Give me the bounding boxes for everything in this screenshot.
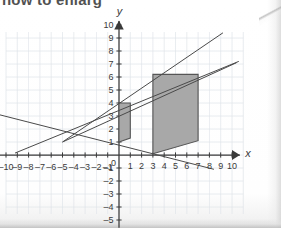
ytick--5: –5	[103, 215, 113, 225]
ytick--4: –4	[103, 202, 113, 212]
xtick-10: 10	[227, 161, 237, 171]
xtick--9: –9	[12, 162, 22, 172]
ytick-5: 5	[108, 85, 113, 95]
ytick--1: –1	[103, 163, 113, 173]
ytick-1: 1	[108, 137, 113, 147]
xtick--3: –3	[80, 162, 90, 172]
xtick--5: –5	[57, 162, 67, 172]
xtick-8: 8	[207, 161, 212, 171]
ytick-8: 8	[108, 46, 113, 56]
scanned-page: how to enlarg –10–9–8–7–6–5–4–3–2–101234…	[0, 0, 281, 228]
xtick-6: 6	[184, 161, 189, 171]
ytick-6: 6	[108, 72, 113, 82]
image-quadrilateral-large	[153, 74, 198, 153]
object-quadrilateral-small	[119, 103, 130, 142]
ytick-2: 2	[108, 124, 113, 134]
xtick-4: 4	[162, 161, 167, 171]
x-axis-label: x	[244, 147, 251, 159]
xtick--6: –6	[46, 162, 56, 172]
ytick-7: 7	[108, 59, 113, 69]
ytick--2: –2	[103, 176, 113, 186]
xtick-1: 1	[128, 161, 133, 171]
y-axis-label: y	[116, 5, 124, 17]
xtick-7: 7	[196, 161, 201, 171]
xtick-9: 9	[218, 161, 223, 171]
xtick-3: 3	[150, 161, 155, 171]
chart-canvas: –10–9–8–7–6–5–4–3–2–1012345678910–5–4–3–…	[0, 0, 281, 228]
xtick--7: –7	[35, 162, 45, 172]
xtick-5: 5	[173, 161, 178, 171]
xtick--2: –2	[91, 162, 101, 172]
xtick-2: 2	[139, 161, 144, 171]
ytick-3: 3	[108, 111, 113, 121]
ytick-9: 9	[108, 33, 113, 43]
ray-upper-mid	[63, 63, 237, 142]
ray-top	[63, 33, 223, 142]
ytick-4: 4	[108, 98, 113, 108]
ytick--3: –3	[103, 189, 113, 199]
xtick--4: –4	[69, 162, 79, 172]
xtick--8: –8	[24, 162, 34, 172]
coordinate-grid-figure: –10–9–8–7–6–5–4–3–2–1012345678910–5–4–3–…	[0, 0, 281, 228]
ytick-10: 10	[103, 20, 113, 30]
